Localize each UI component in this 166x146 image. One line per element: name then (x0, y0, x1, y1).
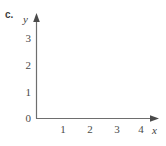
y-tick-label: 1 (15, 86, 31, 98)
y-tick-label: 3 (15, 32, 31, 44)
y-axis-label: y (23, 13, 28, 25)
x-axis-arrow-icon (150, 115, 159, 122)
y-tick-label: 2 (15, 59, 31, 71)
x-axis-label: x (152, 124, 157, 136)
x-tick-label: 3 (110, 123, 124, 135)
y-axis-arrow-icon (33, 13, 40, 22)
x-tick-label: 1 (56, 123, 70, 135)
x-tick-label: 2 (83, 123, 97, 135)
x-tick-label: 4 (134, 123, 148, 135)
y-tick-label: 0 (15, 112, 31, 124)
coordinate-axes-figure: c. y x 3 2 1 0 1 2 3 4 (0, 0, 166, 146)
